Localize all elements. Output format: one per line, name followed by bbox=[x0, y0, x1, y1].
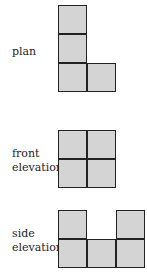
side-label-line1: side bbox=[12, 227, 35, 241]
front-cell bbox=[58, 130, 87, 159]
plan-cell bbox=[58, 34, 87, 63]
plan-cell bbox=[87, 63, 116, 92]
side-label-line2: elevation bbox=[12, 241, 63, 255]
side-cell bbox=[116, 239, 145, 268]
side-cell bbox=[58, 239, 87, 268]
plan-label: plan bbox=[12, 45, 36, 59]
front-cell bbox=[58, 159, 87, 188]
front-cell bbox=[87, 130, 116, 159]
side-cell bbox=[58, 210, 87, 239]
side-cell bbox=[116, 210, 145, 239]
plan-cell bbox=[58, 63, 87, 92]
front-cell bbox=[87, 159, 116, 188]
plan-cell bbox=[58, 5, 87, 34]
front-label-line1: front bbox=[12, 147, 39, 161]
side-cell bbox=[87, 239, 116, 268]
front-label-line2: elevation bbox=[12, 161, 63, 175]
